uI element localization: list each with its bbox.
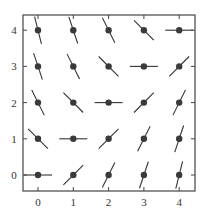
grid-point: [70, 172, 76, 178]
grid-point: [176, 27, 182, 33]
grid-point: [70, 27, 76, 33]
grid-point: [141, 27, 147, 33]
grid-point: [176, 136, 182, 142]
grid-point: [70, 136, 76, 142]
grid-point: [70, 63, 76, 69]
grid-point: [105, 136, 111, 142]
y-tick-label: 3: [11, 60, 17, 72]
slope-segments: [24, 17, 193, 189]
grid-point: [105, 172, 111, 178]
x-tick-label: 3: [141, 196, 147, 208]
tick-labels: 0123401234: [11, 24, 182, 208]
grid-point: [141, 172, 147, 178]
x-tick-label: 2: [106, 196, 112, 208]
grid-point: [35, 63, 41, 69]
y-tick-label: 0: [11, 169, 17, 181]
grid-point: [176, 63, 182, 69]
x-tick-label: 0: [35, 196, 41, 208]
grid-point: [35, 136, 41, 142]
grid-point: [35, 172, 41, 178]
grid-point: [70, 99, 76, 105]
grid-point: [105, 27, 111, 33]
x-tick-label: 1: [71, 196, 77, 208]
y-tick-label: 1: [11, 133, 17, 145]
grid-point: [141, 63, 147, 69]
grid-point: [35, 99, 41, 105]
grid-point: [176, 172, 182, 178]
grid-point: [35, 27, 41, 33]
y-tick-label: 2: [11, 97, 17, 109]
y-tick-label: 4: [11, 24, 17, 36]
grid-point: [105, 99, 111, 105]
grid-point: [105, 63, 111, 69]
x-tick-label: 4: [176, 196, 182, 208]
slope-field-chart: 0123401234: [0, 0, 209, 217]
grid-point: [141, 99, 147, 105]
grid-point: [141, 136, 147, 142]
grid-point: [176, 99, 182, 105]
